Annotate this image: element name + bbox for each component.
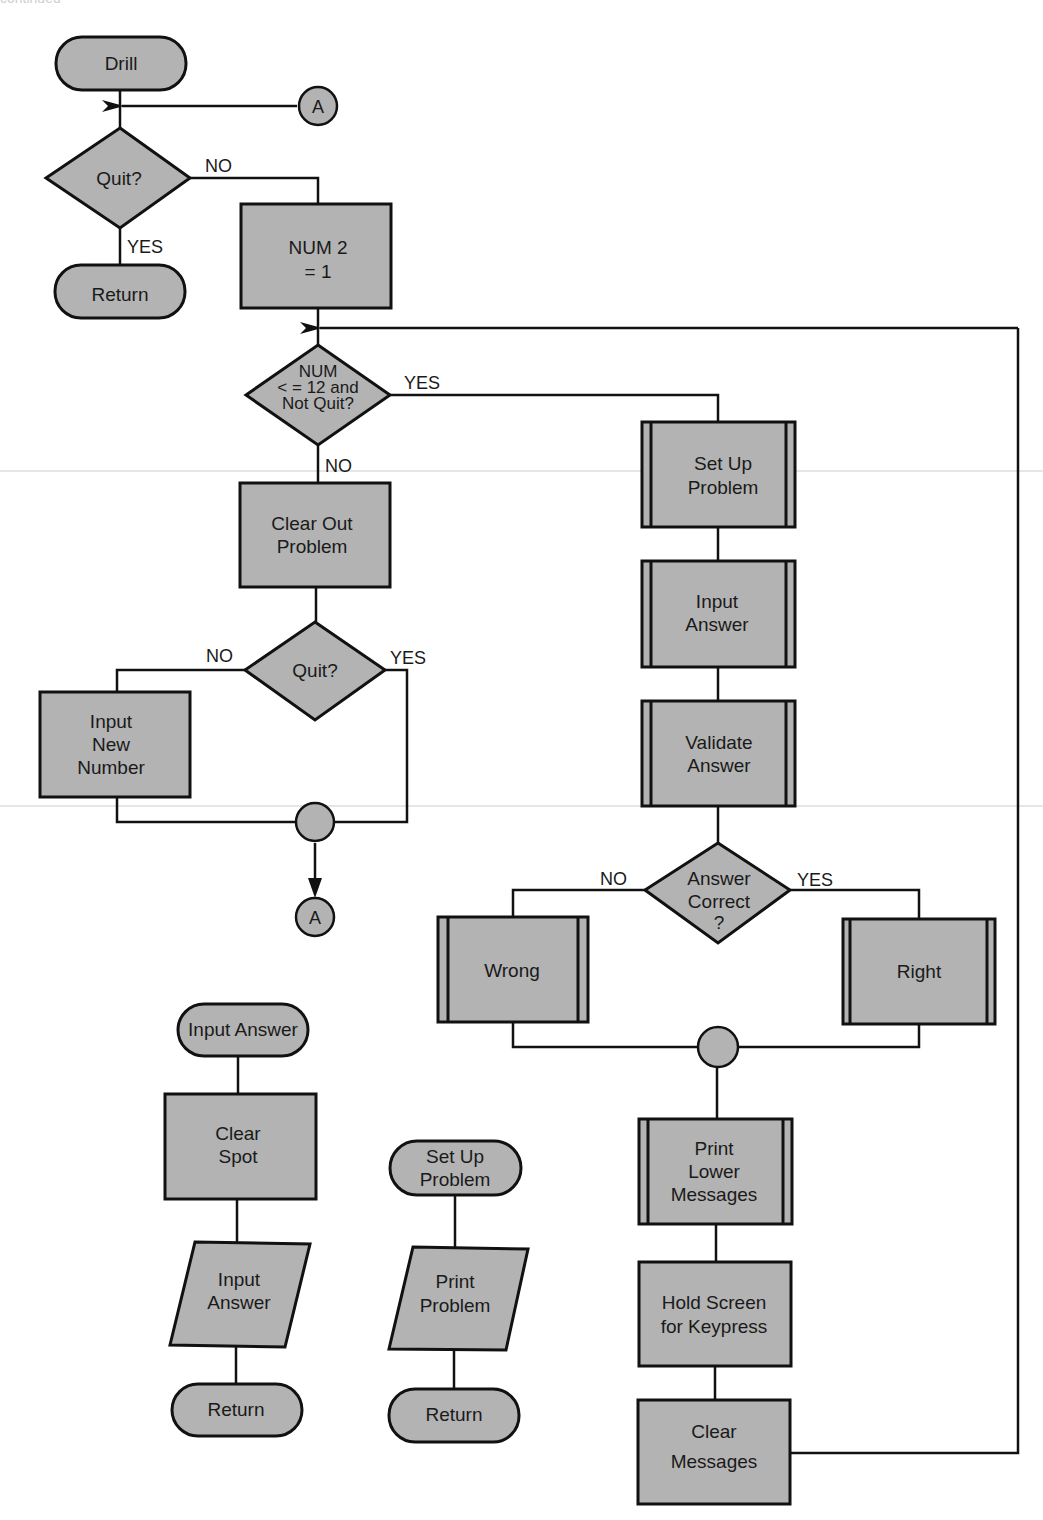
svg-text:Input: Input [696, 591, 739, 612]
svg-text:Return: Return [91, 284, 148, 305]
io-input-answer: Input Answer [170, 1242, 310, 1347]
predefined-print-lower-messages: Print Lower Messages [639, 1119, 792, 1224]
svg-text:Messages: Messages [671, 1184, 758, 1205]
svg-text:Problem: Problem [420, 1295, 491, 1316]
svg-text:Spot: Spot [218, 1146, 258, 1167]
svg-text:Drill: Drill [105, 53, 138, 74]
svg-text:Set Up: Set Up [694, 453, 752, 474]
decision-quit-2: Quit? [245, 622, 385, 720]
terminal-drill: Drill [56, 37, 186, 90]
predefined-wrong: Wrong [438, 917, 588, 1022]
svg-text:Return: Return [425, 1404, 482, 1425]
svg-text:Answer: Answer [207, 1292, 271, 1313]
svg-text:Clear: Clear [215, 1123, 261, 1144]
svg-text:Return: Return [207, 1399, 264, 1420]
svg-text:Print: Print [435, 1271, 475, 1292]
edge-label-yes: YES [797, 870, 833, 890]
edge-label-no: NO [600, 869, 627, 889]
process-input-new-number: Input New Number [40, 692, 190, 797]
process-clear-messages: Clear Messages [638, 1400, 790, 1504]
svg-text:Quit?: Quit? [292, 660, 337, 681]
predefined-validate-answer: Validate Answer [642, 701, 795, 806]
process-hold-screen: Hold Screen for Keypress [639, 1262, 791, 1366]
junction-circle [296, 803, 334, 841]
svg-text:Correct: Correct [688, 891, 751, 912]
edge-label-no: NO [325, 456, 352, 476]
svg-text:Answer: Answer [685, 614, 749, 635]
svg-text:Print: Print [694, 1138, 734, 1159]
svg-text:Clear: Clear [691, 1421, 737, 1442]
svg-text:Lower: Lower [688, 1161, 740, 1182]
process-clear-out-problem: Clear Out Problem [240, 483, 390, 587]
edge-label-no: NO [205, 156, 232, 176]
svg-text:Answer: Answer [687, 868, 751, 889]
svg-text:Quit?: Quit? [96, 168, 141, 189]
svg-text:NUM 2: NUM 2 [288, 237, 347, 258]
svg-text:New: New [92, 734, 130, 755]
terminal-return: Return [389, 1389, 519, 1442]
svg-text:Set Up: Set Up [426, 1146, 484, 1167]
svg-text:A: A [309, 908, 321, 928]
svg-text:A: A [312, 97, 324, 117]
terminal-return: Return [172, 1384, 302, 1436]
svg-text:Problem: Problem [688, 477, 759, 498]
decision-quit: Quit? [46, 128, 190, 228]
connector-a-bottom: A [296, 898, 334, 936]
svg-text:Number: Number [77, 757, 145, 778]
svg-text:for Keypress: for Keypress [661, 1316, 768, 1337]
svg-text:?: ? [714, 912, 725, 933]
svg-text:Input: Input [218, 1269, 261, 1290]
svg-text:Hold Screen: Hold Screen [662, 1292, 767, 1313]
terminal-set-up-problem: Set Up Problem [390, 1141, 521, 1195]
svg-text:Input Answer: Input Answer [188, 1019, 299, 1040]
terminal-input-answer: Input Answer [178, 1004, 308, 1056]
predefined-set-up-problem: Set Up Problem [642, 422, 795, 527]
svg-text:Wrong: Wrong [484, 960, 540, 981]
svg-text:Input: Input [90, 711, 133, 732]
svg-text:= 1: = 1 [305, 261, 332, 282]
svg-text:Not Quit?: Not Quit? [282, 394, 354, 413]
process-clear-spot: Clear Spot [165, 1094, 316, 1199]
junction-circle [698, 1027, 738, 1067]
svg-text:Messages: Messages [671, 1451, 758, 1472]
svg-text:Answer: Answer [687, 755, 751, 776]
decision-num-loop: NUM < = 12 and Not Quit? [246, 345, 390, 445]
svg-text:Problem: Problem [277, 536, 348, 557]
io-print-problem: Print Problem [389, 1247, 528, 1350]
edge-label-no: NO [206, 646, 233, 666]
decision-answer-correct: Answer Correct ? [645, 843, 790, 943]
edge-label-yes: YES [404, 373, 440, 393]
svg-text:Problem: Problem [420, 1169, 491, 1190]
flowchart-canvas: Drill A Quit? NO YES Return NUM 2 = 1 NU… [0, 0, 1043, 1520]
process-num2: NUM 2 = 1 [241, 204, 391, 308]
terminal-return: Return [55, 265, 185, 318]
predefined-input-answer: Input Answer [642, 561, 795, 667]
svg-text:Validate: Validate [685, 732, 752, 753]
predefined-right: Right [843, 919, 995, 1024]
svg-text:Right: Right [897, 961, 942, 982]
edge-label-yes: YES [127, 237, 163, 257]
svg-text:Clear Out: Clear Out [271, 513, 353, 534]
edge-label-yes: YES [390, 648, 426, 668]
connector-a-top: A [299, 87, 337, 125]
